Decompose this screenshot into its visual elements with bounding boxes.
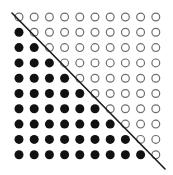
filled-dot bbox=[15, 28, 24, 37]
open-dot bbox=[122, 59, 130, 67]
open-dot bbox=[137, 28, 145, 36]
open-dot bbox=[106, 28, 114, 36]
filled-dot bbox=[30, 135, 39, 144]
open-dot bbox=[137, 59, 145, 67]
open-dot bbox=[152, 59, 160, 67]
filled-dot bbox=[30, 89, 39, 98]
open-dot bbox=[106, 44, 114, 52]
open-dot bbox=[152, 44, 160, 52]
filled-dot bbox=[45, 120, 54, 129]
open-dot bbox=[61, 44, 69, 52]
open-dot bbox=[152, 74, 160, 82]
filled-dot bbox=[15, 150, 24, 159]
filled-dot bbox=[121, 135, 130, 144]
open-dot bbox=[122, 28, 130, 36]
open-dot bbox=[106, 90, 114, 98]
open-dot bbox=[106, 59, 114, 67]
open-dot bbox=[76, 44, 84, 52]
filled-dot bbox=[106, 120, 115, 129]
open-dot bbox=[152, 13, 160, 21]
open-dot bbox=[46, 28, 54, 36]
filled-dot bbox=[91, 104, 100, 113]
open-dot bbox=[91, 28, 99, 36]
filled-dot bbox=[60, 150, 69, 159]
open-dot bbox=[76, 13, 84, 21]
open-dot bbox=[122, 105, 130, 113]
open-dot bbox=[137, 13, 145, 21]
open-dot bbox=[106, 74, 114, 82]
open-dot bbox=[91, 74, 99, 82]
filled-dot bbox=[15, 120, 24, 129]
open-dot bbox=[137, 44, 145, 52]
open-dot bbox=[91, 44, 99, 52]
filled-dot bbox=[45, 74, 54, 83]
filled-dot bbox=[106, 135, 115, 144]
open-dot bbox=[122, 74, 130, 82]
filled-dot bbox=[15, 43, 24, 52]
open-dot bbox=[137, 120, 145, 128]
open-dot bbox=[46, 13, 54, 21]
open-dot bbox=[106, 13, 114, 21]
filled-dot bbox=[91, 135, 100, 144]
filled-dot bbox=[60, 120, 69, 129]
open-dot bbox=[152, 136, 160, 144]
filled-dot bbox=[60, 74, 69, 83]
filled-dot bbox=[45, 135, 54, 144]
filled-dot bbox=[45, 150, 54, 159]
filled-dot bbox=[106, 150, 115, 159]
filled-dot bbox=[30, 150, 39, 159]
filled-dot bbox=[15, 58, 24, 67]
open-dot bbox=[91, 90, 99, 98]
open-dot bbox=[137, 74, 145, 82]
filled-dot bbox=[15, 135, 24, 144]
open-dot bbox=[76, 28, 84, 36]
open-dot bbox=[61, 28, 69, 36]
filled-dot bbox=[30, 120, 39, 129]
filled-dot bbox=[75, 89, 84, 98]
filled-dot bbox=[91, 150, 100, 159]
dot-grid-diagram bbox=[0, 0, 173, 175]
open-dot bbox=[152, 28, 160, 36]
filled-dot bbox=[60, 135, 69, 144]
open-dot bbox=[122, 13, 130, 21]
open-dot bbox=[61, 13, 69, 21]
filled-dot bbox=[75, 120, 84, 129]
filled-dot bbox=[136, 150, 145, 159]
filled-dot bbox=[60, 104, 69, 113]
open-dot bbox=[106, 105, 114, 113]
filled-dot bbox=[30, 58, 39, 67]
open-dot bbox=[137, 90, 145, 98]
filled-dot bbox=[45, 104, 54, 113]
open-dot bbox=[122, 90, 130, 98]
filled-dot bbox=[30, 43, 39, 52]
dot-grid bbox=[15, 13, 160, 159]
filled-dot bbox=[15, 74, 24, 83]
filled-dot bbox=[45, 58, 54, 67]
filled-dot bbox=[30, 74, 39, 83]
filled-dot bbox=[45, 89, 54, 98]
filled-dot bbox=[15, 89, 24, 98]
open-dot bbox=[76, 59, 84, 67]
open-dot bbox=[137, 105, 145, 113]
filled-dot bbox=[121, 150, 130, 159]
filled-dot bbox=[15, 104, 24, 113]
filled-dot bbox=[75, 135, 84, 144]
open-dot bbox=[76, 74, 84, 82]
open-dot bbox=[152, 105, 160, 113]
filled-dot bbox=[75, 104, 84, 113]
open-dot bbox=[91, 59, 99, 67]
filled-dot bbox=[91, 120, 100, 129]
open-dot bbox=[152, 120, 160, 128]
open-dot bbox=[91, 13, 99, 21]
open-dot bbox=[122, 44, 130, 52]
filled-dot bbox=[60, 89, 69, 98]
filled-dot bbox=[30, 104, 39, 113]
open-dot bbox=[152, 90, 160, 98]
open-dot bbox=[30, 13, 38, 21]
filled-dot bbox=[75, 150, 84, 159]
